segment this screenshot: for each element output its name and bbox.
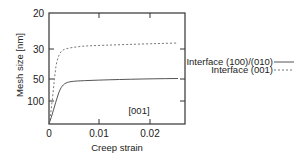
x-tick-label: 0.01 (89, 128, 109, 139)
plot-frame (49, 13, 185, 124)
y-axis-label: Mesh size [nm] (14, 33, 25, 97)
y-tick-label: 50 (33, 74, 45, 85)
legend: Interface (100)/(010) Interface (001) (186, 56, 294, 75)
x-tick-label: 0.02 (140, 128, 160, 139)
x-tick-label: 0 (46, 128, 52, 139)
y-tick-label: 20 (33, 8, 45, 19)
y-tick-label: 100 (27, 96, 44, 107)
orientation-annotation: [001] (128, 105, 149, 116)
series-interface-100-010 (49, 79, 178, 125)
chart: 20 30 50 100 0 0.01 0.02 Creep strain Me… (0, 0, 307, 158)
series-interface-001 (49, 43, 178, 124)
y-tick-label: 30 (33, 44, 45, 55)
x-axis-label: Creep strain (91, 142, 143, 153)
legend-label-interface-001: Interface (001) (211, 64, 273, 75)
y-ticks (49, 49, 185, 101)
